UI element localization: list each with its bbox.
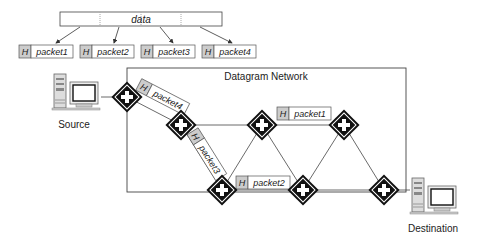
source-label: Source	[58, 119, 90, 130]
router-icon-4	[246, 109, 277, 140]
packet-4: H packet4	[202, 45, 256, 58]
svg-text:H: H	[239, 178, 246, 188]
svg-text:packet2: packet2	[252, 178, 285, 188]
router-icon-5	[287, 174, 318, 205]
svg-text:H: H	[280, 109, 287, 119]
transit-packet-3: H packet3	[187, 128, 227, 181]
datagram-diagram: data H packet1 H packet2 H packet3 H pac…	[0, 0, 478, 238]
svg-text:packet1: packet1	[35, 47, 68, 57]
packet-2: H packet2	[80, 45, 134, 58]
svg-text:H: H	[83, 47, 90, 57]
svg-text:packet2: packet2	[96, 47, 129, 57]
destination-computer-icon	[410, 178, 458, 214]
router-icon-3	[206, 174, 237, 205]
packet-3: H packet3	[141, 45, 195, 58]
transit-packet-1: H packet1	[277, 107, 331, 120]
packet-1: H packet1	[19, 45, 73, 58]
data-label: data	[131, 14, 151, 25]
transit-packet-4: H packet4	[136, 79, 190, 115]
svg-text:packet3: packet3	[157, 47, 190, 57]
svg-text:packet4: packet4	[218, 47, 251, 57]
svg-text:H: H	[22, 47, 29, 57]
router-icon-7	[368, 174, 399, 205]
source-computer-icon	[52, 74, 100, 110]
svg-text:H: H	[205, 47, 212, 57]
network-title: Datagram Network	[224, 71, 308, 82]
split-arrows	[56, 27, 232, 43]
svg-text:packet1: packet1	[293, 109, 326, 119]
transit-packet-2: H packet2	[236, 176, 290, 189]
svg-text:H: H	[144, 47, 151, 57]
data-block: data	[60, 12, 222, 26]
destination-label: Destination	[408, 223, 458, 234]
router-icon-6	[328, 109, 359, 140]
